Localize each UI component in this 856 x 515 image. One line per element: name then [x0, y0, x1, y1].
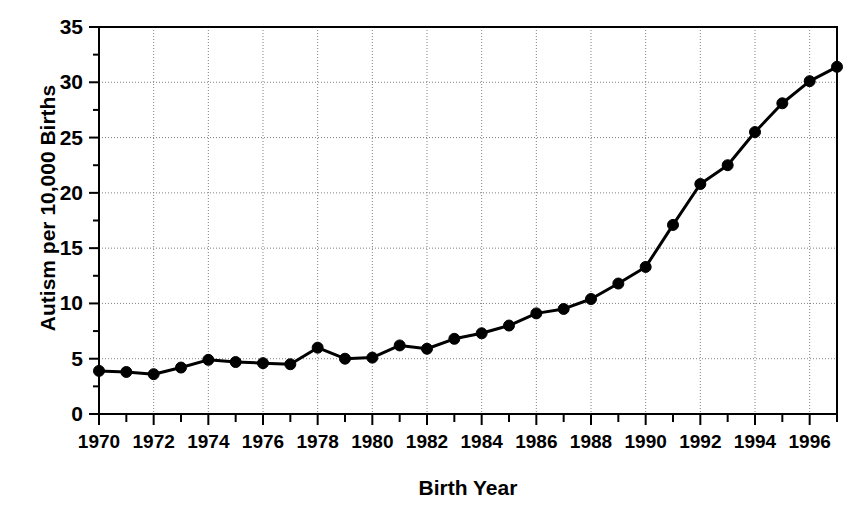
data-point [668, 219, 679, 230]
y-tick-label: 20 [27, 182, 83, 203]
autism-rate-line-chart: Autism per 10,000 Births Birth Year 0510… [0, 0, 856, 515]
y-tick-label: 15 [27, 237, 83, 258]
data-point [804, 76, 815, 87]
data-point [449, 333, 460, 344]
data-point [558, 303, 569, 314]
x-tick-label: 1970 [69, 432, 129, 451]
x-tick-label: 1996 [780, 432, 840, 451]
x-tick-label: 1980 [342, 432, 402, 451]
x-tick-label: 1992 [670, 432, 730, 451]
x-tick-label: 1976 [233, 432, 293, 451]
data-point [832, 61, 843, 72]
data-point [230, 357, 241, 368]
data-point [695, 179, 706, 190]
x-tick-label: 1994 [725, 432, 785, 451]
data-point [750, 127, 761, 138]
data-point [531, 308, 542, 319]
data-point [94, 365, 105, 376]
data-point [640, 261, 651, 272]
data-point [258, 358, 269, 369]
data-point [121, 366, 132, 377]
data-point [367, 352, 378, 363]
x-tick-label: 1984 [452, 432, 512, 451]
x-tick-label: 1990 [616, 432, 676, 451]
x-tick-label: 1972 [124, 432, 184, 451]
x-tick-label: 1982 [397, 432, 457, 451]
y-tick-label: 35 [27, 16, 83, 37]
data-point [422, 343, 433, 354]
data-point [285, 359, 296, 370]
x-tick-label: 1986 [506, 432, 566, 451]
x-tick-label: 1978 [288, 432, 348, 451]
data-point [586, 294, 597, 305]
data-point [340, 353, 351, 364]
data-point [394, 340, 405, 351]
y-tick-label: 30 [27, 71, 83, 92]
data-point [176, 362, 187, 373]
data-point [504, 320, 515, 331]
x-tick-label: 1988 [561, 432, 621, 451]
data-point [722, 160, 733, 171]
y-tick-label: 10 [27, 292, 83, 313]
x-tick-label: 1974 [178, 432, 238, 451]
data-point [148, 369, 159, 380]
data-point [476, 328, 487, 339]
data-point [777, 98, 788, 109]
y-tick-label: 25 [27, 127, 83, 148]
data-point [613, 278, 624, 289]
y-tick-label: 0 [27, 403, 83, 424]
data-point [312, 342, 323, 353]
data-point [203, 354, 214, 365]
y-tick-label: 5 [27, 348, 83, 369]
